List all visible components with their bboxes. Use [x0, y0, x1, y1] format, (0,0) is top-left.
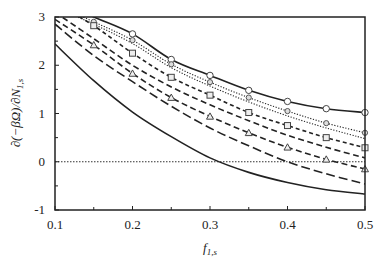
square-marker: [285, 123, 291, 129]
line-chart: 0.10.20.30.40.5 -10123 f1,s ∂(−βΩ)/∂N1,s: [0, 0, 385, 267]
y-tick-label: 2: [39, 57, 46, 72]
square-marker: [246, 110, 252, 116]
circle-marker: [207, 72, 213, 78]
triangle-marker: [284, 144, 291, 150]
diamond-marker: [246, 95, 251, 100]
diamond-marker: [324, 121, 329, 126]
x-tick-label: 0.4: [279, 217, 296, 232]
diamond-marker: [169, 62, 174, 67]
square-marker: [130, 50, 136, 56]
y-tick-label: 1: [39, 106, 46, 121]
circle-marker: [323, 105, 329, 111]
y-axis-label: ∂(−βΩ)/∂N1,s: [8, 78, 25, 147]
circle-marker: [129, 31, 135, 37]
triangle-marker: [168, 94, 175, 100]
x-tick-label: 0.1: [47, 217, 63, 232]
diamond-marker: [207, 80, 212, 85]
square-marker: [207, 92, 213, 98]
circle-marker: [284, 98, 290, 104]
x-tick-label: 0.2: [124, 217, 140, 232]
y-tick-label: 0: [39, 154, 46, 169]
circle-marker: [246, 87, 252, 93]
y-tick-label: -1: [34, 202, 45, 217]
y-tick-label: 3: [39, 9, 46, 24]
square-marker: [91, 23, 97, 29]
diamond-marker: [285, 108, 290, 113]
x-axis-label: f1,s: [203, 240, 217, 257]
square-marker: [323, 135, 329, 141]
markers-group: [90, 19, 368, 172]
x-tick-label: 0.3: [202, 217, 218, 232]
x-tick-label: 0.5: [357, 217, 373, 232]
diamond-marker: [130, 38, 135, 43]
square-marker: [168, 74, 174, 80]
